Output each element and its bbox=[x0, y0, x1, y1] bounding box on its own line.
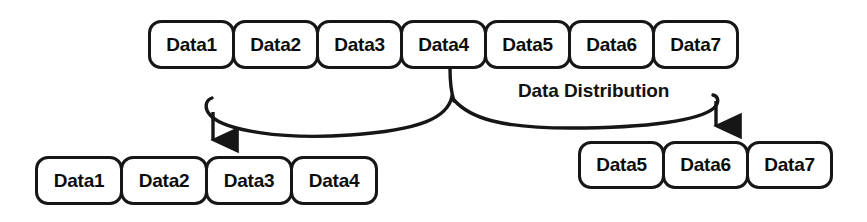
data-block-label: Data5 bbox=[502, 34, 553, 56]
data-block-label: Data2 bbox=[250, 34, 301, 56]
partition-right-row: Data5 Data6 Data7 bbox=[578, 141, 833, 189]
data-block-label: Data1 bbox=[166, 34, 217, 56]
data-block-label: Data7 bbox=[670, 34, 721, 56]
data-block-source-2[interactable]: Data2 bbox=[232, 20, 319, 69]
source-dataset-row: Data1 Data2 Data3 Data4 Data5 Data6 Data… bbox=[148, 20, 739, 69]
data-block-source-6[interactable]: Data6 bbox=[568, 20, 655, 69]
data-block-label: Data4 bbox=[418, 34, 469, 56]
data-block-left-3[interactable]: Data3 bbox=[205, 156, 293, 205]
arrow-to-left-partition-path bbox=[206, 96, 452, 136]
data-block-source-5[interactable]: Data5 bbox=[484, 20, 571, 69]
arrow-stem bbox=[450, 68, 454, 101]
data-block-label: Data2 bbox=[139, 170, 190, 192]
data-block-source-7[interactable]: Data7 bbox=[652, 20, 739, 69]
data-block-left-1[interactable]: Data1 bbox=[35, 156, 123, 205]
data-block-label: Data6 bbox=[680, 154, 731, 176]
data-block-label: Data4 bbox=[309, 170, 360, 192]
data-block-label: Data5 bbox=[596, 154, 647, 176]
data-distribution-diagram: Data1 Data2 Data3 Data4 Data5 Data6 Data… bbox=[0, 0, 867, 222]
data-block-left-4[interactable]: Data4 bbox=[290, 156, 378, 205]
data-block-label: Data1 bbox=[54, 170, 105, 192]
data-block-source-4[interactable]: Data4 bbox=[400, 20, 487, 69]
data-block-source-1[interactable]: Data1 bbox=[148, 20, 235, 69]
partition-left-row: Data1 Data2 Data3 Data4 bbox=[35, 156, 378, 205]
data-block-label: Data7 bbox=[764, 154, 815, 176]
data-block-source-3[interactable]: Data3 bbox=[316, 20, 403, 69]
data-block-right-2[interactable]: Data6 bbox=[662, 141, 749, 189]
data-block-right-1[interactable]: Data5 bbox=[578, 141, 665, 189]
data-distribution-caption: Data Distribution bbox=[518, 80, 669, 102]
data-block-label: Data3 bbox=[334, 34, 385, 56]
data-block-right-3[interactable]: Data7 bbox=[746, 141, 833, 189]
data-block-label: Data6 bbox=[586, 34, 637, 56]
data-block-label: Data3 bbox=[224, 170, 275, 192]
data-block-left-2[interactable]: Data2 bbox=[120, 156, 208, 205]
